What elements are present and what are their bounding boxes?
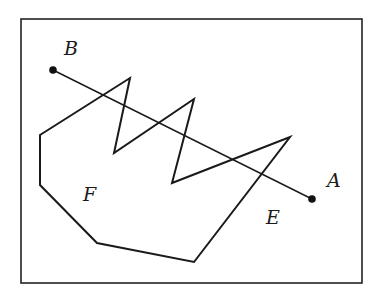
region-e-label: E	[265, 206, 280, 228]
diagram-canvas: B A E F	[0, 0, 379, 299]
point-a-label: A	[325, 169, 341, 191]
point-b-label: B	[63, 37, 78, 59]
region-f-label: F	[82, 183, 97, 205]
point-b-dot	[49, 66, 57, 74]
point-a-dot	[308, 195, 316, 203]
